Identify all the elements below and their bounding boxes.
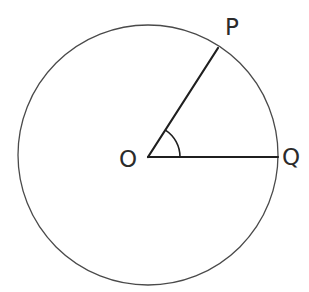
label-point-p: P [225,16,239,39]
label-center-o: O [119,148,137,171]
circle-diagram-canvas [0,0,309,292]
geometry-figure: O P Q [0,0,309,292]
label-point-q: Q [282,146,300,169]
